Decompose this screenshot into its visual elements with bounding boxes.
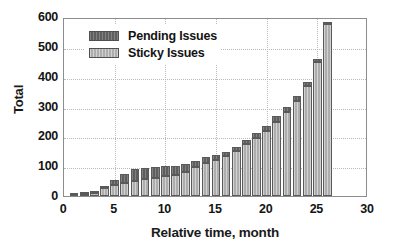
bar-stack [110, 180, 119, 196]
x-tick-label: 10 [149, 202, 179, 216]
bar-segment-sticky-issues [161, 176, 170, 196]
bar-stack [242, 140, 251, 196]
bar-segment-sticky-issues [252, 138, 261, 196]
y-tick-label: 600 [16, 10, 58, 24]
bar-segment-pending-issues [252, 133, 261, 137]
bar-chart: Total Relative time, month 0100200300400… [0, 0, 393, 251]
bar-segment-pending-issues [272, 116, 281, 122]
bar-stack [181, 164, 190, 196]
bar-segment-sticky-issues [191, 167, 200, 196]
bar-segment-sticky-issues [212, 160, 221, 196]
bar-stack [313, 59, 322, 196]
bar-stack [262, 126, 271, 196]
tick-mark-x [64, 196, 65, 197]
bar-segment-pending-issues [141, 168, 150, 179]
bar-stack [252, 133, 261, 196]
y-tick-label: 0 [16, 189, 58, 203]
bar-stack [303, 82, 312, 196]
bar-segment-sticky-issues [313, 62, 322, 196]
bar-segment-pending-issues [181, 164, 190, 172]
bar-stack [293, 96, 302, 196]
legend-item-sticky-issues: Sticky Issues [89, 44, 217, 61]
bar-stack [283, 107, 292, 196]
bar-segment-pending-issues [191, 161, 200, 167]
bar-segment-pending-issues [120, 174, 129, 182]
bar-segment-sticky-issues [100, 188, 109, 196]
bar-segment-sticky-issues [171, 175, 180, 196]
bar-segment-sticky-issues [222, 156, 231, 196]
bar-segment-sticky-issues [232, 151, 241, 196]
pending-issues-swatch-icon [89, 31, 119, 41]
x-tick-label: 25 [301, 202, 331, 216]
sticky-issues-swatch-icon [89, 48, 119, 58]
bar-stack [202, 157, 211, 196]
tick-mark-y [63, 109, 64, 110]
bar-stack [191, 161, 200, 196]
bar-segment-sticky-issues [110, 185, 119, 196]
bar-stack [131, 169, 140, 196]
bar-segment-sticky-issues [283, 112, 292, 196]
bar-segment-pending-issues [283, 107, 292, 112]
bar-segment-sticky-issues [202, 163, 211, 196]
bar-segment-pending-issues [171, 166, 180, 175]
bar-stack [100, 186, 109, 196]
tick-mark-x [165, 196, 166, 197]
bar-segment-pending-issues [303, 82, 312, 86]
bar-stack [151, 167, 160, 196]
bar-segment-sticky-issues [141, 179, 150, 196]
bar-segment-sticky-issues [181, 172, 190, 196]
bar-segment-pending-issues [70, 193, 79, 195]
tick-mark-x [267, 196, 268, 197]
bar-stack [141, 168, 150, 196]
bar-segment-pending-issues [313, 59, 322, 62]
tick-mark-y [63, 49, 64, 50]
bar-segment-pending-issues [151, 167, 160, 178]
bar-segment-pending-issues [242, 140, 251, 144]
x-tick-label: 15 [200, 202, 230, 216]
bar-stack [323, 21, 332, 196]
legend-label-sticky-issues: Sticky Issues [128, 46, 205, 60]
y-tick-label: 300 [16, 100, 58, 114]
bar-segment-sticky-issues [272, 122, 281, 196]
tick-mark-y [63, 19, 64, 20]
plot-area: Pending Issues Sticky Issues [63, 18, 367, 197]
bar-segment-pending-issues [323, 22, 332, 25]
bar-segment-pending-issues [222, 152, 231, 156]
bar-segment-pending-issues [110, 180, 119, 186]
bar-stack [161, 166, 170, 196]
bar-segment-sticky-issues [90, 193, 99, 196]
y-tick-label: 400 [16, 70, 58, 84]
y-tick-label: 200 [16, 129, 58, 143]
bar-segment-pending-issues [131, 169, 140, 180]
bar-segment-pending-issues [293, 96, 302, 100]
bar-segment-sticky-issues [242, 144, 251, 196]
bar-segment-sticky-issues [262, 131, 271, 196]
bar-segment-pending-issues [80, 192, 89, 194]
bar-stack [222, 152, 231, 196]
bar-segment-pending-issues [100, 186, 109, 188]
bar-segment-sticky-issues [293, 101, 302, 196]
bar-segment-pending-issues [161, 166, 170, 176]
bar-segment-pending-issues [262, 126, 271, 131]
x-tick-label: 5 [99, 202, 129, 216]
x-tick-label: 30 [352, 202, 382, 216]
y-tick-label: 500 [16, 40, 58, 54]
bar-stack [120, 174, 129, 196]
chart-legend: Pending Issues Sticky Issues [85, 25, 221, 64]
bar-stack [171, 166, 180, 196]
y-tick-label: 100 [16, 159, 58, 173]
bar-stack [272, 116, 281, 196]
bar-segment-sticky-issues [323, 24, 332, 196]
bar-segment-sticky-issues [80, 194, 89, 196]
tick-mark-x [216, 196, 217, 197]
x-tick-label: 20 [251, 202, 281, 216]
tick-mark-y [63, 138, 64, 139]
bar-stack [80, 193, 89, 196]
legend-label-pending-issues: Pending Issues [128, 29, 217, 43]
bar-segment-pending-issues [90, 191, 99, 193]
bar-segment-pending-issues [212, 155, 221, 160]
bar-segment-pending-issues [202, 157, 211, 162]
x-tick-label: 0 [48, 202, 78, 216]
bar-stack [90, 192, 99, 196]
bar-segment-pending-issues [232, 147, 241, 151]
